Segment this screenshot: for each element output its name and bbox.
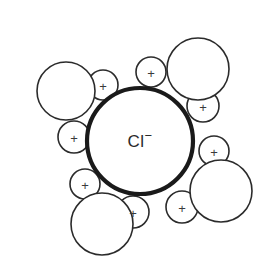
solvation-diagram: + + + + + + + + [0, 0, 270, 272]
plus-sign-top-left-lower: + [70, 131, 78, 146]
oxygen-top-right-circle [167, 38, 229, 100]
plus-sign-bottom-upper: + [81, 178, 89, 193]
plus-sign-right-lower: + [178, 201, 186, 216]
oxygen-top-left-circle [37, 62, 95, 120]
plus-sign-top-right-left: + [147, 66, 155, 81]
chloride-ion-charge: − [144, 128, 152, 143]
plus-sign-right-upper: + [210, 145, 218, 160]
plus-sign-top-left-upper: + [99, 79, 107, 94]
oxygen-bottom-circle [71, 193, 133, 255]
plus-sign-bottom-right: + [129, 206, 137, 221]
solvation-diagram-canvas: + + + + + + + + [0, 0, 270, 272]
chloride-ion: Cl− [87, 88, 193, 194]
oxygen-right-circle [190, 160, 252, 222]
plus-sign-top-right-lower: + [199, 100, 207, 115]
chloride-ion-symbol: Cl [127, 132, 144, 151]
